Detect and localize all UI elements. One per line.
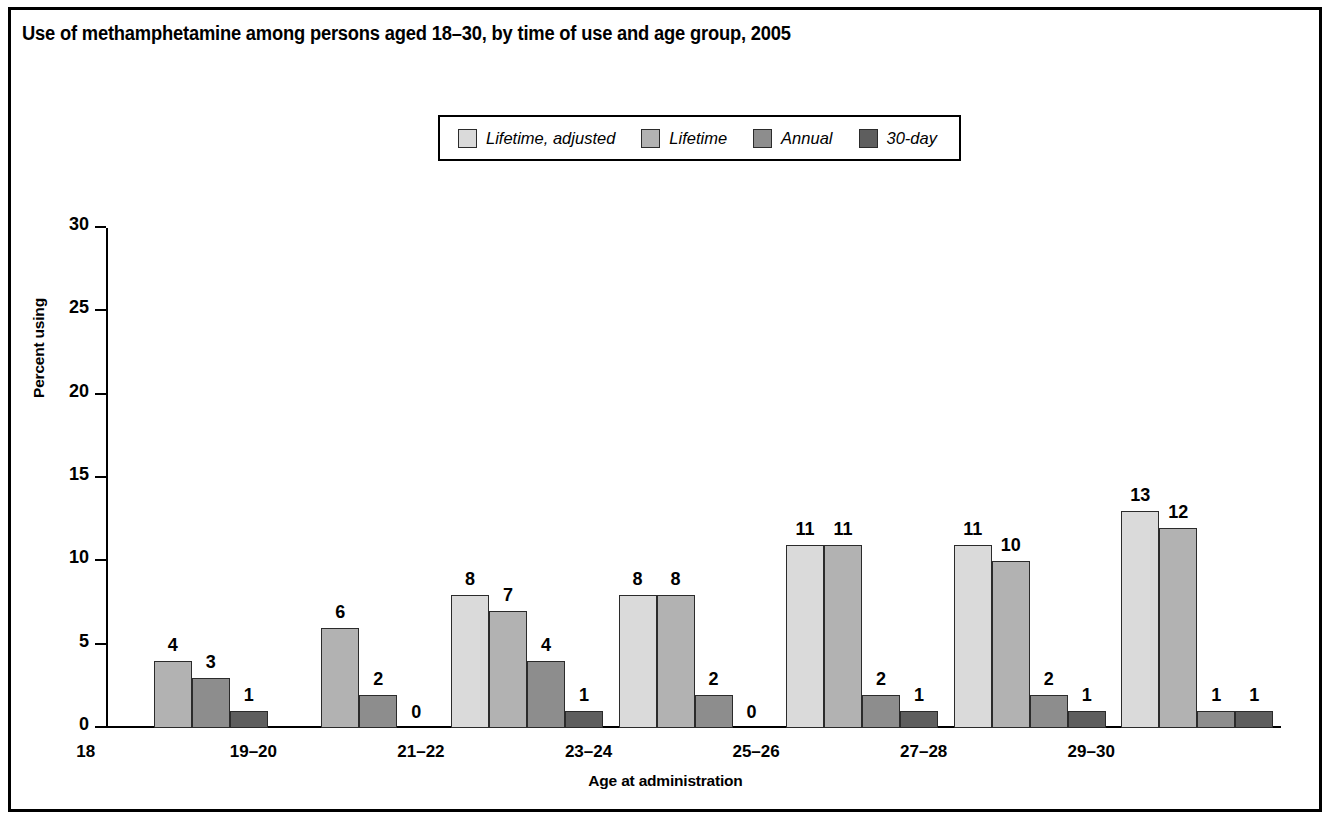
bar-slot: 11 (824, 228, 862, 728)
bar-group-bars: 8741 (443, 228, 611, 728)
y-axis-tick-label: 0 (79, 714, 89, 735)
y-axis-tick: 30 (95, 226, 106, 228)
legend-item[interactable]: Lifetime (641, 129, 727, 148)
bar-value-label: 11 (834, 519, 853, 540)
bar-slot: 4 (154, 228, 192, 728)
bar[interactable] (1197, 711, 1235, 728)
bar-slot: 1 (1068, 228, 1106, 728)
bar-groups: 43162087418820111121111021131211 (108, 228, 1281, 728)
bar-group-bars: 431 (108, 228, 276, 728)
bar[interactable] (527, 661, 565, 728)
x-axis-category-label: 25–26 (672, 742, 840, 762)
bar-slot (283, 228, 321, 728)
legend-swatch-30-day (859, 129, 878, 148)
bar-slot (116, 228, 154, 728)
bar-slot: 4 (527, 228, 565, 728)
legend-item[interactable]: Lifetime, adjusted (458, 129, 615, 148)
bar-slot: 3 (192, 228, 230, 728)
y-axis-tick-label: 15 (69, 464, 89, 485)
bar[interactable] (1121, 511, 1159, 728)
bar[interactable] (565, 711, 603, 728)
bar-slot: 8 (619, 228, 657, 728)
bar[interactable] (451, 595, 489, 728)
bar-group: 131211 (1113, 228, 1281, 728)
bar-group-bars: 131211 (1113, 228, 1281, 728)
bar-value-label: 13 (1130, 485, 1150, 506)
bar-value-label: 3 (206, 652, 216, 673)
y-axis-tick: 15 (95, 476, 106, 478)
bar-slot: 2 (359, 228, 397, 728)
y-axis-tick: 0 (95, 726, 106, 728)
legend-item[interactable]: Annual (753, 129, 832, 148)
bar-value-label: 8 (465, 569, 475, 590)
bar-group-bars: 111021 (946, 228, 1114, 728)
y-axis-tick-label: 10 (69, 547, 89, 568)
bar-value-label: 8 (633, 569, 643, 590)
x-axis-category-label: 21–22 (337, 742, 505, 762)
bar-value-label: 2 (876, 669, 886, 690)
bar-group: 111121 (778, 228, 946, 728)
bar-slot: 1 (1197, 228, 1235, 728)
bar-value-label: 1 (579, 685, 589, 706)
bar-slot: 8 (451, 228, 489, 728)
legend-item-label: Annual (781, 129, 832, 148)
bar[interactable] (321, 628, 359, 728)
x-axis-category-label: 27–28 (840, 742, 1008, 762)
legend-item-label: Lifetime, adjusted (486, 129, 615, 148)
y-axis-tick-label: 5 (79, 631, 89, 652)
bar[interactable] (954, 545, 992, 728)
bar-slot: 6 (321, 228, 359, 728)
bar[interactable] (786, 545, 824, 728)
bar[interactable] (992, 561, 1030, 728)
bar-slot: 1 (230, 228, 268, 728)
y-axis-tick: 10 (95, 559, 106, 561)
bar[interactable] (230, 711, 268, 728)
bar-slot: 2 (695, 228, 733, 728)
bar-slot: 2 (862, 228, 900, 728)
bar[interactable] (900, 711, 938, 728)
bar-slot: 13 (1121, 228, 1159, 728)
y-axis-tick: 20 (95, 393, 106, 395)
x-axis-category-label: 29–30 (1007, 742, 1175, 762)
bar[interactable] (1068, 711, 1106, 728)
bar-slot: 10 (992, 228, 1030, 728)
x-axis-title: Age at administration (0, 772, 1331, 790)
bar-value-label: 6 (335, 602, 345, 623)
bar[interactable] (824, 545, 862, 728)
y-axis-tick-label: 30 (69, 214, 89, 235)
bar-group: 8741 (443, 228, 611, 728)
bar[interactable] (1159, 528, 1197, 728)
bar[interactable] (1235, 711, 1273, 728)
bar[interactable] (359, 695, 397, 728)
y-axis-tick-label: 25 (69, 297, 89, 318)
figure-panel: Use of methamphetamine among persons age… (0, 0, 1331, 821)
bar-slot: 1 (565, 228, 603, 728)
bar[interactable] (862, 695, 900, 728)
legend-item[interactable]: 30-day (859, 129, 937, 148)
bar-value-label: 12 (1168, 502, 1188, 523)
bar[interactable] (192, 678, 230, 728)
bar-value-label: 1 (914, 685, 924, 706)
y-axis-tick: 25 (95, 309, 106, 311)
y-axis-tick: 5 (95, 643, 106, 645)
bar-value-label: 1 (1211, 685, 1221, 706)
bar[interactable] (657, 595, 695, 728)
bar-value-label: 7 (503, 585, 513, 606)
bar-value-label: 1 (1082, 685, 1092, 706)
bar[interactable] (154, 661, 192, 728)
bar[interactable] (1030, 695, 1068, 728)
bar-value-label: 2 (709, 669, 719, 690)
bar-slot: 1 (1235, 228, 1273, 728)
x-axis-category-label: 18 (2, 742, 170, 762)
bar[interactable] (619, 595, 657, 728)
chart-title: Use of methamphetamine among persons age… (22, 22, 1197, 45)
bar-value-label: 2 (1044, 669, 1054, 690)
bar-value-label: 10 (1001, 535, 1021, 556)
bar-value-label: 4 (168, 635, 178, 656)
x-axis-tick-labels: 1819–2021–2223–2425–2627–2829–30 (2, 742, 1175, 762)
bar-slot: 12 (1159, 228, 1197, 728)
bar-value-label: 11 (963, 519, 982, 540)
bar[interactable] (695, 695, 733, 728)
bar[interactable] (489, 611, 527, 728)
bar-value-label: 0 (411, 702, 421, 723)
